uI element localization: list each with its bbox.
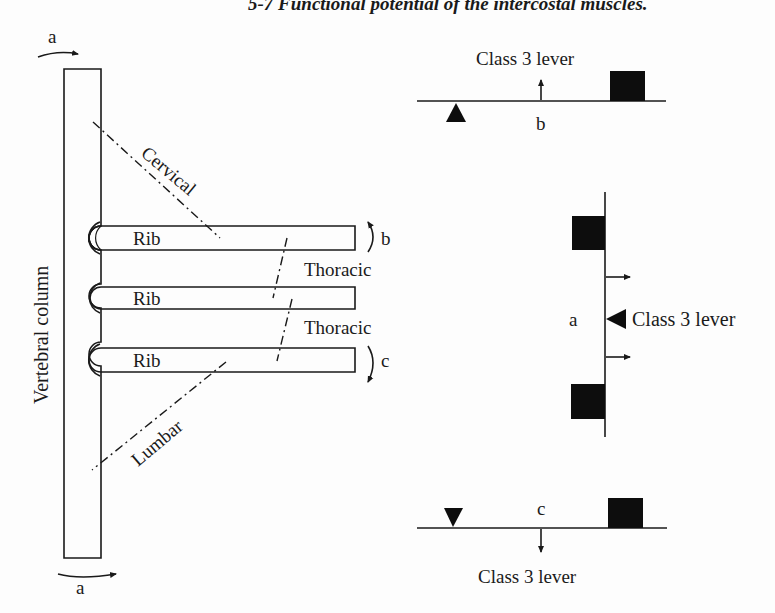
cervical-line <box>93 122 220 238</box>
lever-b-load-icon <box>610 71 645 101</box>
rib-1-label: Rib <box>133 228 160 249</box>
rotation-label-bottom: a <box>76 577 85 598</box>
lever-a-fulcrum-icon <box>606 309 626 329</box>
lever-a-load-bottom-icon <box>571 384 605 419</box>
thoracic-label-upper: Thoracic <box>304 259 372 280</box>
vertebral-diagram: a Vertebral column Rib Rib Rib Cervical <box>30 26 391 598</box>
lever-b-fulcrum-icon <box>446 103 466 122</box>
lever-a-load-top-icon <box>572 216 605 250</box>
rib-2-label: Rib <box>133 288 160 309</box>
lumbar-label: Lumbar <box>127 415 187 470</box>
thoracic-line-upper <box>273 238 287 298</box>
lever-b-letter: b <box>536 113 546 134</box>
rib-elevation-arrow-icon <box>368 222 373 252</box>
lever-b-title: Class 3 lever <box>476 48 575 69</box>
rib-1: Rib <box>89 226 355 250</box>
lever-a-diagram: a Class 3 lever <box>569 192 736 437</box>
rotation-arrow-bottom-icon <box>58 574 116 577</box>
lever-c-letter: c <box>537 498 545 519</box>
rib-depression-arrow-icon <box>368 346 373 382</box>
lever-c-load-icon <box>608 498 643 528</box>
vertebral-column-shape <box>64 69 101 558</box>
rib-3-label: Rib <box>133 350 160 371</box>
lever-c-fulcrum-icon <box>444 508 463 527</box>
rib-3: Rib <box>89 348 355 372</box>
thoracic-label-lower: Thoracic <box>304 317 372 338</box>
rotation-arrow-top-icon <box>38 53 78 57</box>
lever-c-title: Class 3 lever <box>478 566 577 587</box>
rotation-label-top: a <box>48 26 57 47</box>
rib-2: Rib <box>90 287 355 309</box>
lever-a-letter: a <box>569 309 578 330</box>
motion-label-c: c <box>381 350 389 371</box>
vertebral-column-label: Vertebral column <box>30 266 52 404</box>
lever-c-diagram: c Class 3 lever <box>417 498 667 587</box>
figure-caption: 5-7 Functional potential of the intercos… <box>248 0 648 14</box>
motion-label-b: b <box>381 228 391 249</box>
lever-a-title: Class 3 lever <box>632 308 736 330</box>
lever-b-diagram: Class 3 lever b <box>417 48 666 134</box>
figure-canvas: 5-7 Functional potential of the intercos… <box>0 0 775 613</box>
